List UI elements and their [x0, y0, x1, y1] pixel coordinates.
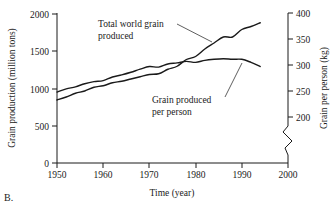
grain-production-chart: 2000 1500 1000 500 0 Grain production (m…	[0, 0, 333, 213]
right-axis-title: Grain per person (kg)	[319, 47, 330, 129]
y-tick-label: 1500	[30, 47, 49, 57]
y-tick-label: 500	[35, 122, 50, 132]
leader-line-total	[177, 24, 212, 42]
series-total-world-grain-produced	[57, 23, 260, 100]
x-tick-label: 1990	[233, 170, 252, 180]
x-axis-title: Time (year)	[150, 188, 195, 199]
x-tick-label: 1950	[48, 170, 67, 180]
annotation-perperson-line2: per person	[152, 107, 192, 117]
y2-tick-label: 400	[296, 9, 311, 19]
x-tick-label: 1970	[140, 170, 159, 180]
annotation-perperson-line1: Grain produced	[152, 95, 212, 105]
figure-caption: B.	[4, 192, 14, 203]
x-tick-label: 1960	[94, 170, 113, 180]
left-axis-title: Grain production (million tons)	[7, 28, 18, 148]
y-tick-label: 0	[44, 159, 49, 169]
y2-tick-label: 350	[296, 35, 311, 45]
x-tick-label: 2000	[279, 170, 298, 180]
left-y-axis: 2000 1500 1000 500 0 Grain production (m…	[7, 10, 57, 169]
y2-tick-label: 200	[296, 113, 311, 123]
leader-line-perperson	[225, 63, 242, 97]
annotation-total-line2: produced	[98, 31, 134, 41]
x-tick-label: 1980	[187, 170, 206, 180]
y-tick-label: 2000	[30, 10, 49, 20]
annotation-total-world-grain: Total world grain produced	[98, 19, 212, 42]
x-axis: 1950 1960 1970 1980 1990 2000 Time (year…	[48, 163, 298, 199]
right-y-axis: 400 350 300 250 200 Grain per person (kg…	[283, 9, 330, 164]
figure-panel-b: 2000 1500 1000 500 0 Grain production (m…	[0, 0, 333, 213]
y2-tick-label: 250	[296, 87, 311, 97]
y2-tick-label: 300	[296, 61, 311, 71]
annotation-total-line1: Total world grain	[98, 19, 164, 29]
y-tick-label: 1000	[30, 85, 49, 95]
axis-break-zigzag	[283, 117, 292, 163]
